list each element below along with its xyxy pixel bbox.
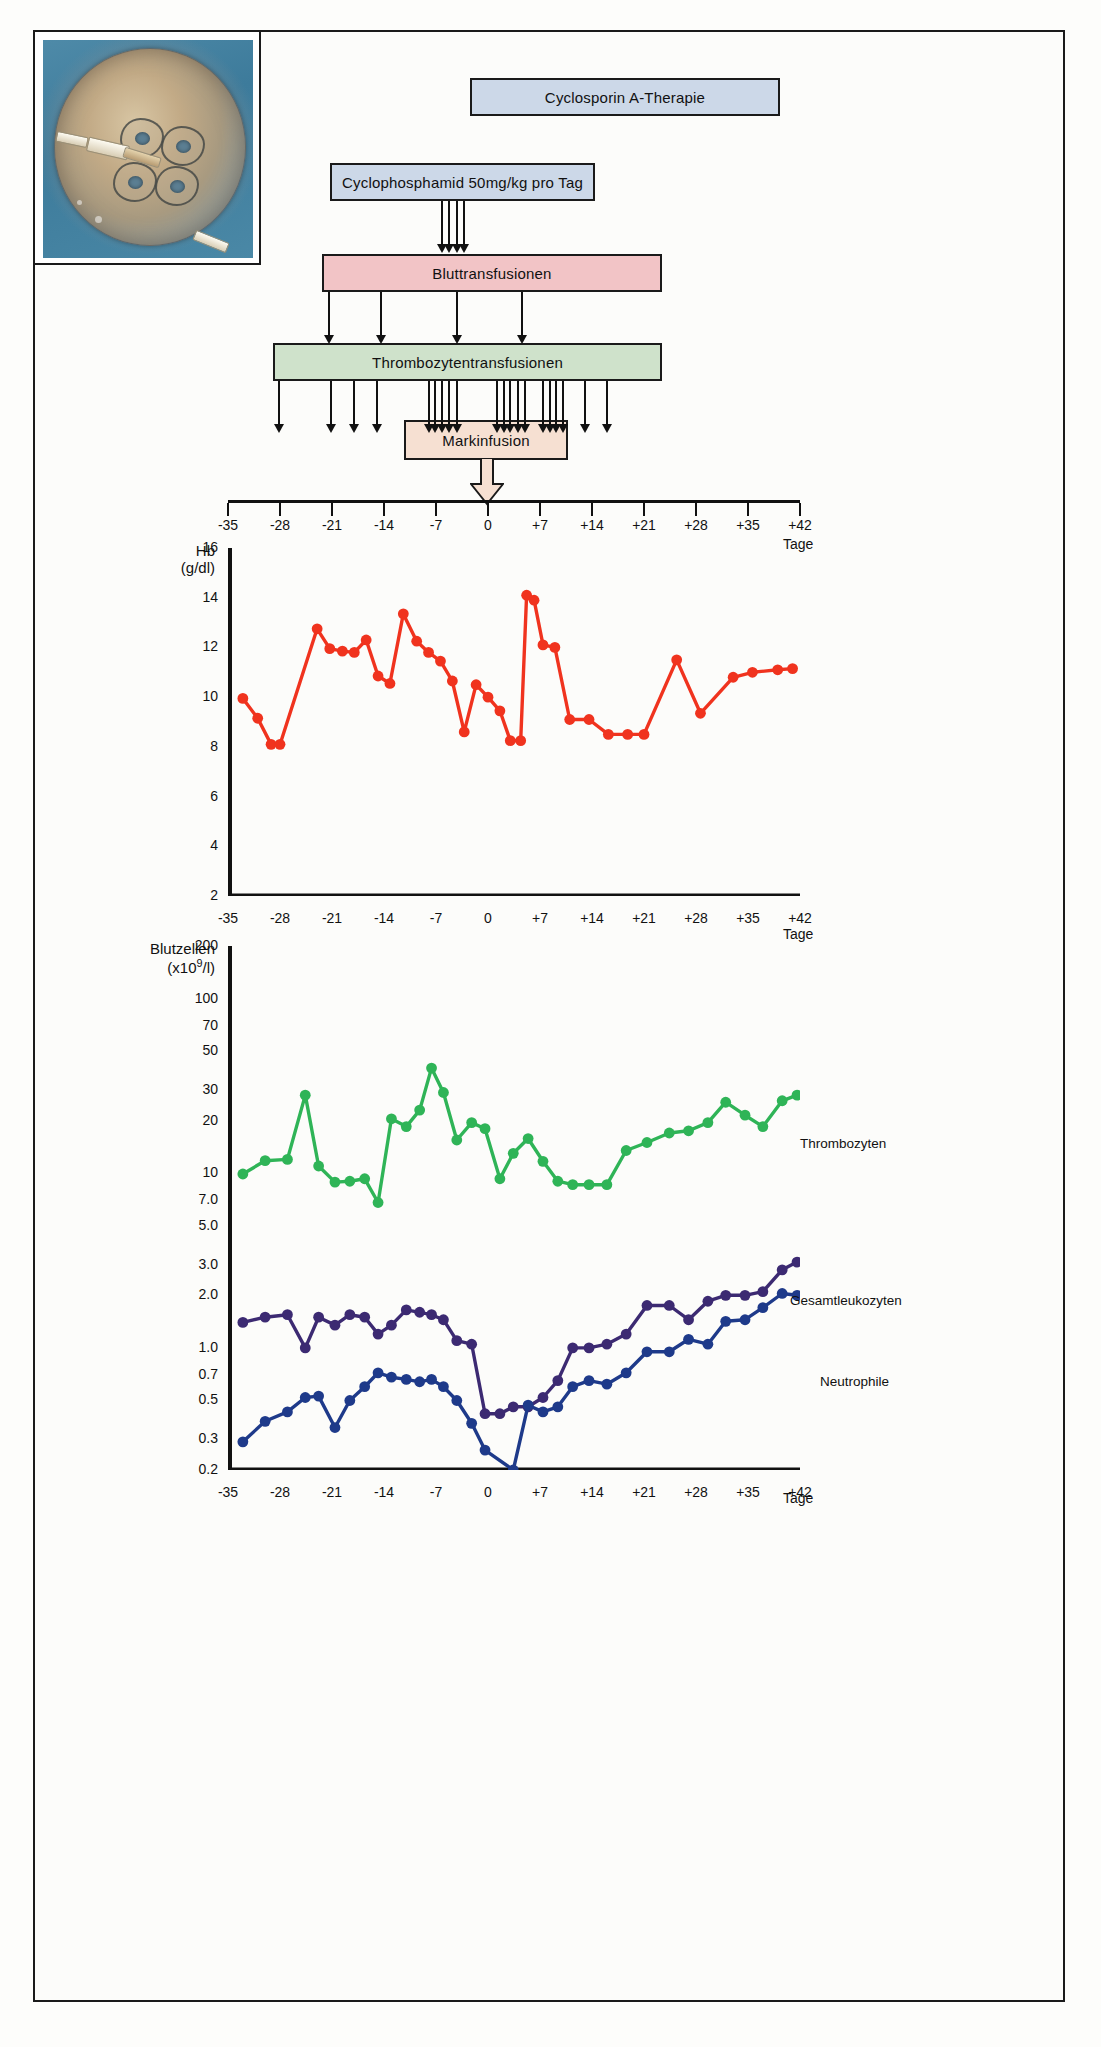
- thrombozyten-arrow: [606, 381, 608, 425]
- day-axis-tick: [747, 503, 749, 516]
- y-tick-label: 2.0: [174, 1286, 218, 1302]
- day-axis-tick-label: +21: [621, 517, 667, 533]
- x-tick-label: +14: [569, 910, 615, 926]
- thrombozyten-arrow: [330, 381, 332, 425]
- y-tick-label: 10: [174, 1164, 218, 1180]
- y-tick-label: 3.0: [174, 1256, 218, 1272]
- day-axis-tick: [799, 503, 801, 516]
- thrombozyten-arrow: [555, 381, 557, 425]
- y-tick-label: 12: [174, 638, 218, 654]
- thrombozyten-arrow: [517, 381, 519, 425]
- photo-inset: [33, 30, 261, 265]
- y-tick-label: 2: [174, 887, 218, 903]
- cyclophosphamid-dose-arrow: [463, 201, 465, 245]
- day-axis-line: [228, 500, 800, 503]
- y-tick-label: 100: [174, 990, 218, 1006]
- blutzellen-axis-title-line2: (x109/l): [100, 957, 215, 976]
- day-axis-tick: [227, 503, 229, 516]
- day-axis-tick-label: -35: [205, 517, 251, 533]
- treatment-box-cyclophosphamid: Cyclophosphamid 50mg/kg pro Tag: [330, 163, 595, 201]
- x-tick-label: -14: [361, 910, 407, 926]
- treatment-box-cyclophosphamid-label: Cyclophosphamid 50mg/kg pro Tag: [342, 174, 583, 191]
- y-tick-label: 8: [174, 738, 218, 754]
- day-axis-tick: [539, 503, 541, 516]
- day-axis-tick: [643, 503, 645, 516]
- x-tick-label: +21: [621, 910, 667, 926]
- blood-cells-chart: [228, 946, 800, 1470]
- day-axis-tick: [279, 503, 281, 516]
- cyclophosphamid-dose-arrow: [441, 201, 443, 245]
- treatment-box-markinfusion-label: Markinfusion: [442, 432, 529, 449]
- y-tick-label: 5.0: [174, 1217, 218, 1233]
- x-tick-label: +42: [777, 910, 823, 926]
- x-tick-label: +28: [673, 910, 719, 926]
- thrombozyten-arrow: [503, 381, 505, 425]
- day-axis-tick-label: -21: [309, 517, 355, 533]
- x-tick-label: -21: [309, 910, 355, 926]
- day-axis-tick-label: +28: [673, 517, 719, 533]
- thrombozyten-arrow: [353, 381, 355, 425]
- y-tick-label: 0.3: [174, 1430, 218, 1446]
- bluttransfusion-arrow: [328, 292, 330, 336]
- x-tick-label: -28: [257, 1484, 303, 1500]
- thrombozyten-arrow: [524, 381, 526, 425]
- day-axis-tick: [383, 503, 385, 516]
- y-tick-label: 10: [174, 688, 218, 704]
- y-tick-label: 6: [174, 788, 218, 804]
- day-axis-tick-label: +35: [725, 517, 771, 533]
- treatment-box-cyclosporin-label: Cyclosporin A-Therapie: [545, 89, 705, 106]
- y-tick-label: 70: [174, 1017, 218, 1033]
- treatment-box-bluttransfusionen-label: Bluttransfusionen: [432, 265, 551, 282]
- day-axis-tick-label: -28: [257, 517, 303, 533]
- thrombozyten-arrow: [278, 381, 280, 425]
- y-tick-label: 14: [174, 589, 218, 605]
- thrombozyten-arrow: [428, 381, 430, 425]
- day-axis-tick: [695, 503, 697, 516]
- x-tick-label: -35: [205, 1484, 251, 1500]
- bluttransfusion-arrow: [456, 292, 458, 336]
- marrow-bag-photo: [43, 40, 253, 258]
- photo-tube-d: [192, 230, 229, 254]
- thrombozyten-arrow: [542, 381, 544, 425]
- series-label-thrombozyten: Thrombozyten: [800, 1136, 886, 1151]
- x-tick-label: -7: [413, 910, 459, 926]
- y-tick-label: 0.7: [174, 1366, 218, 1382]
- hb-chart: [228, 548, 800, 896]
- cyclophosphamid-dose-arrow: [448, 201, 450, 245]
- x-tick-label: +35: [725, 910, 771, 926]
- x-tick-label: +28: [673, 1484, 719, 1500]
- x-tick-label: -28: [257, 910, 303, 926]
- day-axis-tick: [591, 503, 593, 516]
- figure-page: Cyclosporin A-Therapie Cyclophosphamid 5…: [0, 0, 1101, 2047]
- day-axis-tick-label: -7: [413, 517, 459, 533]
- day-axis-tick-label: +7: [517, 517, 563, 533]
- treatment-box-bluttransfusionen: Bluttransfusionen: [322, 254, 662, 292]
- bluttransfusion-arrow: [380, 292, 382, 336]
- y-tick-label: 4: [174, 837, 218, 853]
- thrombozyten-arrow: [562, 381, 564, 425]
- x-tick-label: -7: [413, 1484, 459, 1500]
- series-label-gesamtleukozyten: Gesamtleukozyten: [790, 1293, 902, 1308]
- hb-axis-title-line2: (g/dl): [115, 559, 215, 576]
- thrombozyten-arrow: [549, 381, 551, 425]
- treatment-box-thrombozytentransfusionen-label: Thrombozytentransfusionen: [372, 354, 563, 371]
- y-tick-label: 200: [174, 937, 218, 953]
- markinfusion-arrow-icon: [470, 458, 504, 506]
- x-tick-label: +21: [621, 1484, 667, 1500]
- y-tick-label: 0.2: [174, 1461, 218, 1477]
- day-axis-tick-label: +42: [777, 517, 823, 533]
- x-tick-label: 0: [465, 910, 511, 926]
- y-tick-label: 50: [174, 1042, 218, 1058]
- x-tick-label: -21: [309, 1484, 355, 1500]
- y-tick-label: 20: [174, 1112, 218, 1128]
- day-axis-tick: [331, 503, 333, 516]
- y-tick-label: 0.5: [174, 1391, 218, 1407]
- day-axis-tick: [487, 503, 489, 516]
- y-tick-label: 7.0: [174, 1191, 218, 1207]
- x-tick-label: +7: [517, 1484, 563, 1500]
- day-axis-tick-label: +14: [569, 517, 615, 533]
- day-axis-tick-label: 0: [465, 517, 511, 533]
- x-tick-label: +7: [517, 910, 563, 926]
- thrombozyten-arrow: [496, 381, 498, 425]
- treatment-box-cyclosporin: Cyclosporin A-Therapie: [470, 78, 780, 116]
